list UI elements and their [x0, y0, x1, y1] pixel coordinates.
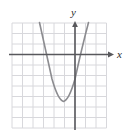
y-axis-label: y [70, 6, 76, 18]
graph-figure: x y [0, 0, 126, 138]
coordinate-plane-svg: x y [0, 0, 126, 138]
grid-lines [12, 23, 107, 128]
x-axis [9, 52, 114, 58]
y-axis-arrow-icon [72, 21, 78, 27]
x-axis-arrow-icon [108, 52, 114, 58]
x-axis-label: x [116, 48, 122, 60]
